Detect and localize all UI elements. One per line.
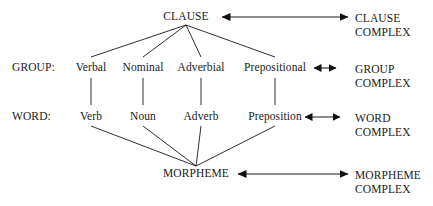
group-complex-line2: COMPLEX [355,76,411,90]
node-group-complex: GROUP COMPLEX [355,62,411,90]
node-clause-complex: CLAUSE COMPLEX [355,11,411,39]
node-word-preposition: Preposition [248,111,302,123]
node-clause: CLAUSE [163,11,208,23]
word-complex-line1: WORD [355,111,411,125]
word-to-morpheme-fan [91,126,275,166]
node-morpheme-complex: MORPHEME COMPLEX [355,168,421,196]
morpheme-complex-line2: COMPLEX [355,182,421,196]
group-to-word-verticals [91,78,275,105]
node-group-adverbial: Adverbial [178,62,225,74]
clause-complex-line1: CLAUSE [355,11,411,25]
node-word-complex: WORD COMPLEX [355,111,411,139]
node-morpheme: MORPHEME [163,168,229,180]
node-word-noun: Noun [130,111,156,123]
node-group-verbal: Verbal [76,62,107,74]
axis-label-group: GROUP: [12,62,55,74]
node-word-adverb: Adverb [183,111,218,123]
clause-complex-line2: COMPLEX [355,25,411,39]
group-complex-line1: GROUP [355,62,411,76]
clause-to-group-fan [91,25,275,57]
node-word-verb: Verb [80,111,102,123]
morpheme-complex-line1: MORPHEME [355,168,421,182]
axis-label-word: WORD: [12,111,51,123]
rank-scale-diagram: CLAUSE CLAUSE COMPLEX GROUP: Verbal Nomi… [0,0,433,206]
node-group-nominal: Nominal [123,62,164,74]
node-group-prepositional: Prepositional [244,62,306,74]
word-complex-line2: COMPLEX [355,125,411,139]
